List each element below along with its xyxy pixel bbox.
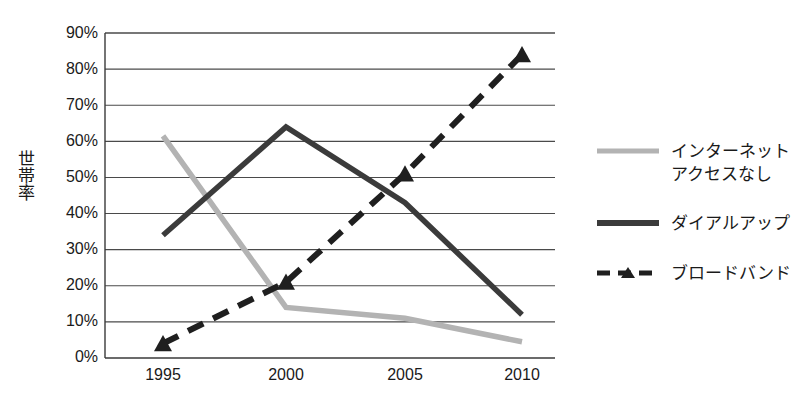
- legend-label-broadband: ブロードバンド: [671, 262, 791, 285]
- series-line-1: [163, 127, 522, 315]
- line-chart: 世帯率 90% 80% 70% 60% 50% 40% 30% 20% 10% …: [0, 0, 809, 411]
- legend-item-no-internet-access[interactable]: インターネット アクセスなし: [595, 140, 790, 186]
- triangle-marker-icon: [513, 46, 531, 62]
- legend-swatch-no-internet-access: [595, 140, 661, 162]
- legend-item-dialup[interactable]: ダイアルアップ: [595, 212, 790, 235]
- series-line-0: [163, 136, 522, 342]
- legend-label-dialup: ダイアルアップ: [671, 212, 790, 235]
- legend-item-broadband[interactable]: ブロードバンド: [595, 262, 791, 285]
- triangle-marker-icon: [396, 165, 414, 181]
- legend-swatch-dialup: [595, 212, 661, 234]
- series-line-2: [163, 55, 522, 344]
- series-layer: [154, 46, 531, 351]
- legend-swatch-broadband: [595, 262, 661, 284]
- plot-area: [0, 0, 809, 411]
- legend-label-no-internet-access: インターネット アクセスなし: [671, 140, 790, 186]
